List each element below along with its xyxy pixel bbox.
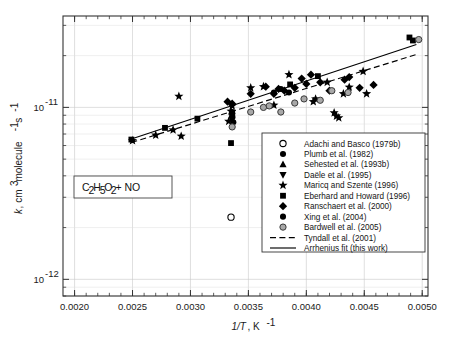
- data-point: [329, 88, 335, 94]
- data-point: [323, 77, 332, 86]
- legend-label: Eberhard and Howard (1996): [304, 192, 410, 201]
- data-point: [316, 78, 324, 86]
- svg-text:-1: -1: [267, 317, 276, 328]
- svg-text:-12: -12: [45, 268, 59, 279]
- legend-label: Bardwell et al. (2005): [304, 223, 382, 232]
- data-point: [301, 96, 307, 102]
- x-axis-title: 1/T, K-1: [232, 317, 276, 332]
- chart-legend: Adachi and Basco (1979b)Plumb et al. (19…: [262, 133, 425, 253]
- svg-text:10: 10: [33, 274, 44, 285]
- legend-label: Arrhenius fit (this work): [304, 244, 388, 253]
- data-point: [228, 214, 234, 220]
- x-tick-label: 0.0035: [234, 301, 263, 312]
- legend-label: Maricq and Szente (1996): [304, 181, 398, 190]
- svg-text:+ NO: + NO: [115, 181, 140, 193]
- legend-label: Plumb et al. (1982): [304, 150, 373, 159]
- y-tick-label: 10-11: [33, 96, 58, 113]
- data-point: [229, 124, 235, 130]
- axis-titles: 1/T, K-1k, cm3 molecule-1 s-1: [9, 102, 276, 332]
- data-point: [284, 70, 293, 79]
- data-point: [307, 71, 315, 79]
- svg-text:1/T: 1/T: [232, 321, 247, 332]
- data-point: [416, 36, 422, 42]
- legend-label: Xing et al. (2004): [304, 213, 367, 222]
- scatter-chart: 0.00200.00250.00300.00350.00400.00450.00…: [0, 0, 452, 343]
- data-point: [174, 92, 183, 101]
- y-tick-labels: 10-1110-12: [33, 96, 58, 284]
- data-point: [292, 100, 298, 106]
- data-point: [177, 131, 186, 140]
- data-point: [128, 137, 134, 143]
- data-point: [266, 103, 272, 109]
- data-point: [410, 38, 416, 44]
- data-point: [260, 104, 266, 110]
- data-point: [228, 140, 234, 146]
- svg-text:molecule: molecule: [13, 141, 24, 181]
- legend-label: Daële et al. (1995): [304, 171, 372, 180]
- svg-text:s: s: [13, 118, 24, 123]
- data-point: [278, 86, 284, 92]
- legend-label: Ranschaert et al. (2000): [304, 202, 392, 211]
- y-axis-title: k, cm3 molecule-1 s-1: [9, 102, 24, 214]
- x-tick-label: 0.0020: [60, 301, 89, 312]
- x-tick-label: 0.0025: [118, 301, 147, 312]
- data-point: [247, 90, 255, 98]
- x-tick-label: 0.0045: [350, 301, 379, 312]
- data-point: [271, 90, 277, 96]
- data-point: [162, 125, 168, 131]
- figure-container: 0.00200.00250.00300.00350.00400.00450.00…: [0, 0, 452, 343]
- data-point: [286, 90, 292, 96]
- svg-text:10: 10: [33, 102, 44, 113]
- legend-label: Sehested et al. (1993b): [304, 160, 389, 169]
- y-tick-label: 10-12: [33, 268, 58, 285]
- x-tick-label: 0.0040: [292, 301, 321, 312]
- data-point: [369, 81, 377, 89]
- legend-label: Tyndall et al. (2001): [304, 234, 376, 243]
- data-point: [278, 109, 284, 115]
- svg-text:-1: -1: [9, 102, 20, 111]
- svg-text:, cm: , cm: [13, 190, 24, 209]
- data-point: [345, 89, 351, 95]
- data-point: [362, 89, 371, 98]
- svg-text:-11: -11: [45, 96, 58, 107]
- data-point: [195, 116, 201, 122]
- x-tick-label: 0.0050: [408, 301, 437, 312]
- data-point: [248, 109, 254, 115]
- data-point: [315, 73, 321, 79]
- data-point: [356, 84, 364, 92]
- svg-text:, K: , K: [248, 321, 261, 332]
- data-point: [359, 67, 368, 76]
- x-tick-labels: 0.00200.00250.00300.00350.00400.00450.00…: [60, 301, 437, 312]
- reaction-annotation: C2H5O2 + NO: [74, 176, 172, 198]
- x-tick-label: 0.0030: [176, 301, 205, 312]
- legend-label: Adachi and Basco (1979b): [304, 140, 401, 149]
- data-point: [229, 109, 235, 115]
- data-point: [317, 97, 323, 103]
